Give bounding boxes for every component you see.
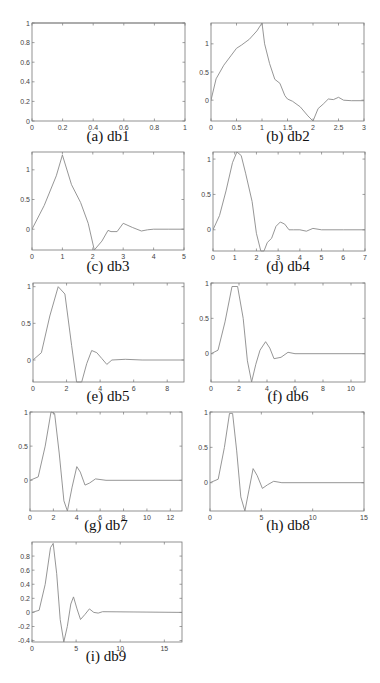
x-tick-label: 5 xyxy=(74,645,78,652)
y-tick-label: 0 xyxy=(26,609,30,616)
y-tick-label: 0.2 xyxy=(20,595,30,602)
y-tick-label: 0.6 xyxy=(20,567,30,574)
y-tick-label: -0.2 xyxy=(18,623,30,630)
wavelet-line xyxy=(32,543,182,642)
plot-db9: 051015-0.4-0.200.20.40.60.8 xyxy=(0,0,380,683)
y-tick-label: -0.4 xyxy=(18,637,30,644)
x-tick-label: 15 xyxy=(160,645,168,652)
y-tick-label: 0.8 xyxy=(20,553,30,560)
subplot-caption: (i) db9 xyxy=(86,648,126,665)
x-tick-label: 0 xyxy=(30,645,34,652)
y-tick-label: 0.4 xyxy=(20,581,30,588)
